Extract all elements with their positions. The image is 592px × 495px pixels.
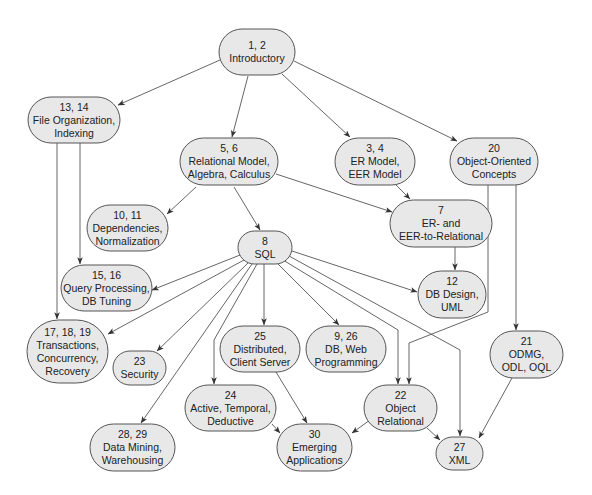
node-n22: 22ObjectRelational [364,385,437,431]
node-chapter-numbers: 17, 18, 19 [44,326,91,338]
edge-n22-to-n27 [427,428,440,440]
node-n27: 27XML [436,437,483,470]
node-label-line: Dependencies, [92,222,162,234]
node-label-line: Normalization [95,235,159,247]
node-chapter-numbers: 28, 29 [118,428,147,440]
node-n30: 30EmergingApplications [277,424,352,471]
node-n1: 1, 2Introductory [219,29,295,75]
edge-n8-to-n12 [292,251,417,292]
node-chapter-numbers: 5, 6 [220,142,238,154]
node-label-line: Distributed, [233,343,286,355]
node-chapter-numbers: 9, 26 [334,330,358,342]
node-chapter-numbers: 15, 16 [92,269,121,281]
node-label-line: DB Tuning [82,295,131,307]
node-chapter-numbers: 22 [395,389,407,401]
node-label-line: Applications [286,454,343,466]
node-n9: 9, 26DB, WebProgramming [306,326,386,372]
node-chapter-numbers: 27 [454,441,466,453]
node-label-line: Emerging [292,441,337,453]
node-label-line: Client Server [230,356,291,368]
node-n28: 28, 29Data Mining,Warehousing [90,424,175,471]
node-label-line: File Organization, [33,114,115,126]
node-n24: 24Active, Temporal,Deductive [185,385,276,431]
node-n20: 20Object-OrientedConcepts [450,138,538,185]
edge-n8-to-n15 [152,255,240,290]
node-label-line: Object [385,402,415,414]
edge-n3-to-n7 [396,185,410,199]
node-n23: 23Security [113,351,166,385]
node-label-line: DB Design, [425,288,478,300]
node-label-line: Introductory [229,52,285,64]
node-n13: 13, 14File Organization,Indexing [28,97,120,143]
edge-n5-to-n8 [234,187,260,230]
edge-n1-to-n5 [232,76,248,137]
edge-n25-to-n30 [276,372,307,423]
node-n3: 3, 4ER Model,EER Model [335,138,415,185]
node-n21: 21ODMG,ODL, OQL [490,331,563,378]
node-n10: 10, 11Dependencies,Normalization [87,205,168,251]
node-chapter-numbers: 20 [488,142,500,154]
node-label-line: Data Mining, [103,441,162,453]
edge-n1-to-n13 [118,60,220,105]
edge-n5-to-n10 [167,187,196,214]
node-n25: 25Distributed,Client Server [220,326,300,372]
node-chapter-numbers: 25 [254,330,266,342]
node-label-line: ER- and [422,217,461,229]
node-label-line: Deductive [207,415,254,427]
node-chapter-numbers: 8 [262,235,268,247]
node-label-line: Programming [314,356,377,368]
node-chapter-numbers: 24 [225,389,237,401]
node-label-line: EER Model [348,168,401,180]
node-label-line: Warehousing [102,454,164,466]
node-chapter-numbers: 1, 2 [248,39,266,51]
node-label-line: Algebra, Calculus [188,168,270,180]
edge-n1-to-n20 [294,61,457,141]
node-label-line: XML [449,454,471,466]
node-label-line: Indexing [54,127,94,139]
node-chapter-numbers: 30 [309,428,321,440]
edge-n21-to-n27 [479,378,512,438]
node-label-line: Concurrency, [37,352,99,364]
node-chapter-numbers: 12 [446,275,458,287]
node-n12: 12DB Design,UML [418,271,486,318]
node-n15: 15, 16Query Processing,DB Tuning [61,265,152,311]
node-label-line: EER-to-Relational [399,230,483,242]
nodes-layer: 1, 2Introductory13, 14File Organization,… [27,29,563,471]
node-label-line: DB, Web [325,343,367,355]
node-label-line: ER Model, [350,155,399,167]
edge-n24-to-n30 [272,424,280,433]
node-label-line: Active, Temporal, [190,402,270,414]
node-label-line: ODL, OQL [502,361,552,373]
node-label-line: UML [441,301,463,313]
node-n17: 17, 18, 19Transactions,Concurrency,Recov… [27,320,108,383]
node-label-line: Query Processing, [63,282,149,294]
node-n8: 8SQL [238,231,292,264]
node-chapter-numbers: 7 [438,204,444,216]
node-chapter-numbers: 13, 14 [59,101,88,113]
node-chapter-numbers: 21 [521,335,533,347]
node-n7: 7ER- andEER-to-Relational [390,200,492,247]
node-label-line: SQL [254,248,275,260]
edge-n22-to-n30 [352,420,370,433]
node-label-line: Security [121,368,160,380]
node-n5: 5, 6Relational Model,Algebra, Calculus [180,138,278,185]
node-label-line: Relational Model, [188,155,269,167]
node-label-line: ODMG, [509,348,545,360]
node-label-line: Transactions, [36,339,99,351]
node-label-line: Concepts [472,168,516,180]
node-label-line: Recovery [45,365,90,377]
edge-n8-to-n9 [277,263,339,325]
dependency-diagram: 1, 2Introductory13, 14File Organization,… [0,0,592,495]
node-chapter-numbers: 3, 4 [366,142,384,154]
node-chapter-numbers: 10, 11 [113,209,142,221]
node-label-line: Relational [377,415,424,427]
node-chapter-numbers: 23 [134,355,146,367]
node-label-line: Object-Oriented [457,155,531,167]
